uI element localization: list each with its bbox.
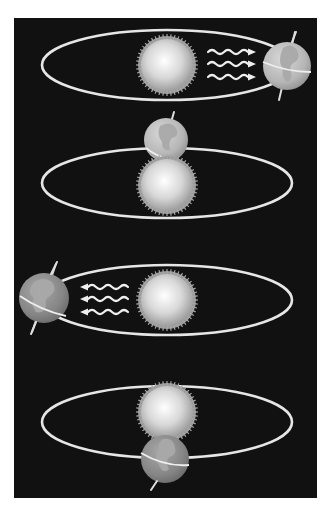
sun-icon: [136, 381, 198, 443]
orbit-seasons-diagram: [0, 0, 327, 521]
sun-icon: [136, 34, 198, 96]
sun-icon: [136, 269, 198, 331]
sun-icon: [136, 154, 198, 216]
